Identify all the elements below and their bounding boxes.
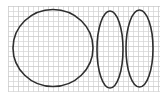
graph-paper-grid: [8, 6, 160, 92]
circle-large: [13, 10, 93, 87]
ellipse-diagram-canvas: [0, 0, 167, 98]
